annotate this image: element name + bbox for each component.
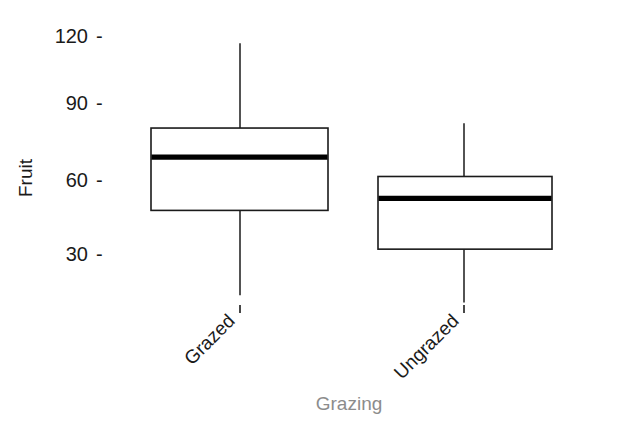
box-body-ungrazed[interactable]: [378, 176, 552, 249]
y-axis-title-group: Fruit: [15, 158, 36, 197]
x-axis-title: Grazing: [316, 393, 383, 414]
box-ungrazed[interactable]: [378, 123, 552, 302]
x-category-label-ungrazed: Ungrazed: [390, 310, 463, 383]
x-category-label-grazed: Grazed: [180, 310, 239, 369]
y-tick-dash-90: -: [96, 92, 103, 114]
x-axis-title-group: Grazing: [316, 393, 383, 414]
x-axis-category-labels: Grazed Ungrazed: [180, 310, 463, 383]
y-tick-label-30: 30: [66, 243, 88, 265]
y-tick-label-60: 60: [66, 169, 88, 191]
y-tick-label-90: 90: [66, 92, 88, 114]
y-tick-dash-30: -: [96, 243, 103, 265]
y-tick-dash-60: -: [96, 169, 103, 191]
x-axis-tickmarks: [240, 305, 464, 313]
y-axis-title: Fruit: [15, 158, 36, 197]
box-grazed[interactable]: [151, 43, 328, 295]
y-axis-tick-labels: 120 - 90 - 60 - 30 -: [55, 25, 103, 265]
plot-canvas: 120 - 90 - 60 - 30 - Fruit: [0, 0, 620, 435]
boxplot-figure: 120 - 90 - 60 - 30 - Fruit: [0, 0, 620, 435]
box-body-grazed[interactable]: [151, 128, 328, 210]
y-tick-dash-120: -: [96, 25, 103, 47]
y-tick-label-120: 120: [55, 25, 88, 47]
